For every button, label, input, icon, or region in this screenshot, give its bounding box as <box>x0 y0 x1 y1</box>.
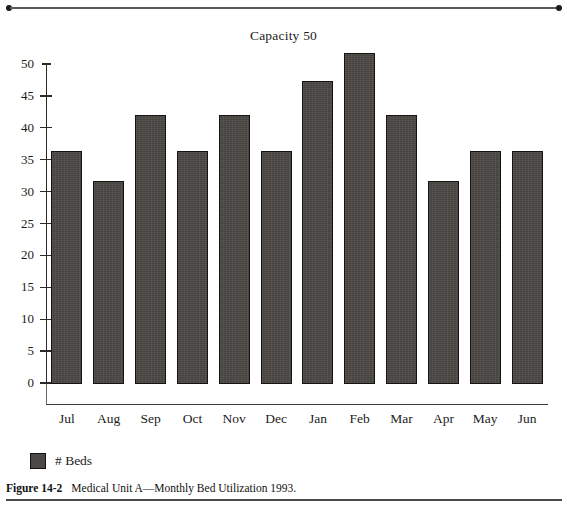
bar-feb <box>344 53 375 384</box>
y-axis-label: 50 <box>0 57 34 70</box>
y-axis-baseline-stub <box>46 383 47 405</box>
bar-jul <box>51 151 82 384</box>
y-axis-label: 10 <box>0 312 34 325</box>
y-axis-tick <box>40 350 52 351</box>
bar-mar <box>386 115 417 384</box>
page-top-rule <box>6 6 562 9</box>
x-axis-label-dec: Dec <box>255 412 297 426</box>
y-axis-tick <box>40 159 52 160</box>
x-axis-label-feb: Feb <box>339 412 381 426</box>
y-axis-label: 40 <box>0 121 34 134</box>
y-axis-tick <box>40 223 52 224</box>
bar-sep <box>135 115 166 384</box>
y-axis-tick <box>40 191 52 192</box>
bar-may <box>470 151 501 384</box>
y-axis-label: 35 <box>0 153 34 166</box>
y-axis-label: 5 <box>0 344 34 357</box>
bar-aug <box>93 181 124 384</box>
x-axis-label-sep: Sep <box>130 412 172 426</box>
bar-oct <box>177 151 208 384</box>
bar-jun <box>512 151 543 384</box>
y-axis-tick <box>42 63 51 64</box>
caption-text: Medical Unit A—Monthly Bed Utilization 1… <box>71 482 296 494</box>
bar-nov <box>219 115 250 384</box>
bar-dec <box>261 151 292 384</box>
x-axis-label-aug: Aug <box>88 412 130 426</box>
y-axis-label: 25 <box>0 217 34 230</box>
x-axis-label-jun: Jun <box>506 412 548 426</box>
x-axis-label-may: May <box>464 412 506 426</box>
y-axis-tick <box>40 127 52 128</box>
y-axis-label: 30 <box>0 185 34 198</box>
y-axis-label: 15 <box>0 280 34 293</box>
legend-swatch-beds <box>30 453 46 469</box>
rule-line <box>10 7 558 9</box>
legend-label-beds: # Beds <box>55 453 92 469</box>
chart-legend: # Beds <box>30 453 92 469</box>
x-axis-label-jan: Jan <box>297 412 339 426</box>
x-axis-line <box>46 404 548 405</box>
y-axis-tick <box>40 287 52 288</box>
x-axis-label-jul: Jul <box>46 412 88 426</box>
x-axis-label-oct: Oct <box>172 412 214 426</box>
y-axis-tick <box>40 319 52 320</box>
plot-area: 05101520253035404550JulAugSepOctNovDecJa… <box>0 14 567 414</box>
y-axis-tick <box>40 382 52 383</box>
caption-figure-number: Figure 14-2 <box>6 482 62 494</box>
x-axis-label-nov: Nov <box>213 412 255 426</box>
y-axis-label: 20 <box>0 248 34 261</box>
bar-jan <box>302 81 333 384</box>
x-axis-label-mar: Mar <box>381 412 423 426</box>
y-axis-tick <box>40 255 52 256</box>
x-axis-label-apr: Apr <box>423 412 465 426</box>
y-axis-label: 0 <box>0 376 34 389</box>
y-axis-label: 45 <box>0 89 34 102</box>
page-bottom-rule <box>6 499 562 501</box>
figure-caption: Figure 14-2Medical Unit A—Monthly Bed Ut… <box>6 482 561 494</box>
bar-chart-figure: Capacity 50 05101520253035404550JulAugSe… <box>0 14 567 472</box>
rule-end-dot-right <box>556 5 562 11</box>
bar-apr <box>428 181 459 384</box>
y-axis-tick <box>40 95 52 96</box>
